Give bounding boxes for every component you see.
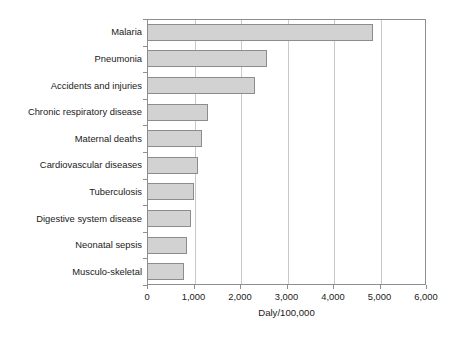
bar-row — [147, 46, 426, 73]
bar-row — [147, 125, 426, 152]
x-axis-title: Daly/100,000 — [147, 307, 426, 318]
category-tick — [143, 72, 147, 73]
category-label: Digestive system disease — [0, 214, 142, 224]
category-tick — [143, 205, 147, 206]
bar-row — [147, 179, 426, 206]
bar — [147, 50, 267, 67]
value-tick — [426, 285, 427, 289]
value-tick — [194, 285, 195, 289]
value-tick-label: 4,000 — [311, 291, 355, 302]
category-tick — [143, 179, 147, 180]
category-label: Accidents and injuries — [0, 81, 142, 91]
bar-row — [147, 72, 426, 99]
category-label: Pneumonia — [0, 54, 142, 64]
bar-row — [147, 19, 426, 46]
value-tick-label: 2,000 — [218, 291, 262, 302]
value-tick — [333, 285, 334, 289]
bars-layer — [147, 19, 426, 285]
value-tick — [147, 285, 148, 289]
category-label: Maternal deaths — [0, 134, 142, 144]
bar — [147, 104, 208, 121]
bar — [147, 237, 187, 254]
value-tick-label: 6,000 — [404, 291, 448, 302]
category-label: Cardiovascular diseases — [0, 160, 142, 170]
bar — [147, 130, 202, 147]
value-tick — [380, 285, 381, 289]
category-tick — [143, 152, 147, 153]
category-tick — [143, 46, 147, 47]
bar — [147, 210, 191, 227]
category-label: Chronic respiratory disease — [0, 107, 142, 117]
category-label: Tuberculosis — [0, 187, 142, 197]
category-axis-labels: MalariaPneumoniaAccidents and injuriesCh… — [0, 19, 142, 285]
category-tick — [143, 258, 147, 259]
bar — [147, 157, 198, 174]
bar-chart: MalariaPneumoniaAccidents and injuriesCh… — [0, 0, 452, 337]
value-tick-label: 1,000 — [172, 291, 216, 302]
value-tick-label: 3,000 — [265, 291, 309, 302]
bar — [147, 24, 373, 41]
bar-row — [147, 258, 426, 285]
bar-row — [147, 232, 426, 259]
bar — [147, 77, 255, 94]
value-tick-label: 0 — [125, 291, 169, 302]
category-label: Neonatal sepsis — [0, 240, 142, 250]
category-tick — [143, 232, 147, 233]
category-label: Malaria — [0, 27, 142, 37]
category-tick — [143, 125, 147, 126]
category-label: Musculo-skeletal — [0, 267, 142, 277]
bar — [147, 263, 184, 280]
bar-row — [147, 152, 426, 179]
bar-row — [147, 99, 426, 126]
bar — [147, 183, 194, 200]
value-tick — [287, 285, 288, 289]
category-tick — [143, 19, 147, 20]
category-tick — [143, 99, 147, 100]
bar-row — [147, 205, 426, 232]
value-tick — [240, 285, 241, 289]
value-tick-label: 5,000 — [358, 291, 402, 302]
